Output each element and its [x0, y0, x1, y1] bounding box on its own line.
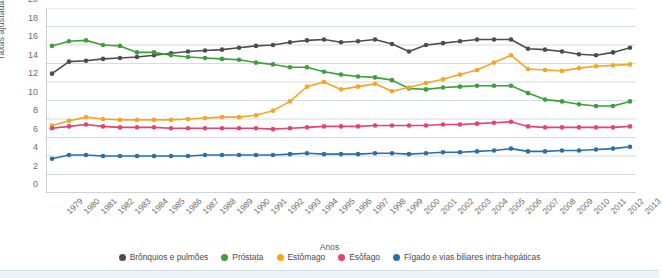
data-point	[186, 154, 191, 159]
y-tick-label: 16	[20, 32, 38, 41]
data-point	[203, 56, 208, 61]
data-point	[203, 153, 208, 158]
data-point	[543, 68, 548, 73]
x-tick-label: 1979	[64, 196, 84, 216]
data-point	[577, 66, 582, 71]
data-point	[237, 58, 242, 63]
data-point	[560, 99, 565, 104]
data-point	[101, 117, 106, 122]
data-point	[288, 99, 293, 104]
data-point	[237, 45, 242, 50]
x-tick-label: 1997	[370, 196, 390, 216]
series-3	[50, 53, 633, 128]
data-point	[356, 124, 361, 129]
x-tick-label: 1991	[268, 196, 288, 216]
data-point	[390, 78, 395, 83]
data-point	[543, 125, 548, 130]
x-tick-label: 1983	[132, 196, 152, 216]
data-point	[322, 37, 327, 42]
data-point	[577, 148, 582, 153]
data-point	[254, 153, 259, 158]
x-axis-label: Anos	[0, 242, 659, 252]
data-point	[577, 102, 582, 107]
data-point	[356, 39, 361, 44]
x-tick-label: 2008	[557, 196, 577, 216]
x-tick-label: 1994	[319, 196, 339, 216]
data-point	[475, 37, 480, 42]
data-point	[220, 115, 225, 120]
x-tick-label: 1985	[166, 196, 186, 216]
data-point	[611, 104, 616, 109]
data-point	[475, 83, 480, 88]
data-point	[322, 124, 327, 129]
y-tick-label: 2	[20, 162, 38, 171]
data-point	[390, 89, 395, 94]
footer-bar	[0, 270, 659, 278]
x-tick-label: 2010	[591, 196, 611, 216]
data-point	[339, 152, 344, 157]
data-point	[373, 151, 378, 156]
x-tick-label: 1981	[98, 196, 118, 216]
data-point	[67, 124, 72, 129]
data-point	[526, 149, 531, 154]
data-point	[135, 55, 140, 60]
data-point	[84, 122, 89, 127]
data-point	[492, 83, 497, 88]
data-point	[135, 50, 140, 55]
data-point	[373, 123, 378, 128]
data-point	[441, 41, 446, 46]
x-tick-label: 1984	[149, 196, 169, 216]
legend-color-swatch	[119, 254, 126, 261]
data-point	[475, 68, 480, 73]
data-point	[373, 82, 378, 87]
x-tick-label: 1995	[336, 196, 356, 216]
data-point	[628, 62, 633, 67]
y-tick-label: 20	[20, 0, 38, 4]
x-tick-label: 1986	[183, 196, 203, 216]
data-point	[50, 71, 55, 76]
data-point	[611, 63, 616, 68]
data-point	[50, 156, 55, 161]
data-point	[509, 37, 514, 42]
legend-item-5[interactable]: Fígado e vias biliares intra-hepáticas	[393, 252, 540, 262]
data-point	[118, 118, 123, 123]
data-point	[611, 146, 616, 151]
data-point	[356, 84, 361, 89]
data-point	[118, 44, 123, 49]
y-tick-label: 4	[20, 143, 38, 152]
x-tick-label: 2000	[421, 196, 441, 216]
legend-label: Fígado e vias biliares intra-hepáticas	[404, 252, 540, 262]
data-point	[373, 75, 378, 80]
plot-area	[46, 8, 636, 193]
data-point	[67, 39, 72, 44]
data-point	[305, 125, 310, 130]
x-tick-label: 1998	[387, 196, 407, 216]
data-point	[441, 150, 446, 155]
data-point	[288, 152, 293, 157]
y-tick-label: 6	[20, 125, 38, 134]
data-point	[475, 149, 480, 154]
data-point	[458, 72, 463, 77]
data-point	[118, 125, 123, 130]
legend-label: Estômago	[288, 252, 326, 262]
legend-item-1[interactable]: Brônquios e pulmões	[119, 252, 209, 262]
data-point	[237, 126, 242, 131]
data-point	[254, 44, 259, 49]
data-point	[186, 49, 191, 54]
data-point	[390, 151, 395, 156]
data-point	[152, 50, 157, 55]
y-axis-ticks: 02468101214161820	[20, 0, 38, 185]
legend-item-4[interactable]: Esôfago	[338, 252, 380, 262]
data-point	[101, 57, 106, 62]
data-point	[203, 116, 208, 121]
data-point	[305, 151, 310, 156]
data-point	[237, 153, 242, 158]
legend-item-3[interactable]: Estômago	[277, 252, 326, 262]
y-tick-label: 14	[20, 51, 38, 60]
data-point	[67, 59, 72, 64]
data-point	[50, 126, 55, 131]
data-point	[390, 42, 395, 47]
legend-item-2[interactable]: Próstata	[221, 252, 263, 262]
data-point	[288, 126, 293, 131]
